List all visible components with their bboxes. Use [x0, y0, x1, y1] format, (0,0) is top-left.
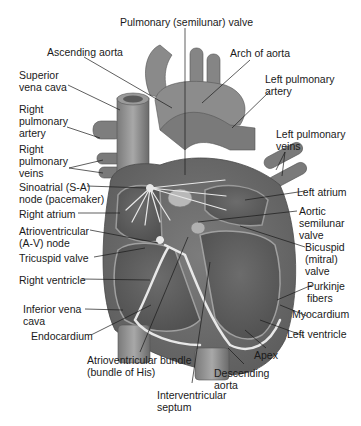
label-right-pulmonary-veins: Right pulmonary veins [19, 143, 68, 179]
label-ascending-aorta: Ascending aorta [47, 46, 123, 58]
label-inferior-vena-cava: Inferior vena cava [23, 303, 81, 327]
label-aortic-valve: Aortic semilunar valve [299, 205, 345, 241]
label-right-ventricle: Right ventricle [19, 274, 86, 286]
label-left-atrium: Left atrium [297, 186, 347, 198]
label-right-pulmonary-artery: Right pulmonary artery [19, 103, 68, 139]
label-sa-node: Sinoatrial (S-A) node (pacemaker) [19, 181, 104, 205]
label-interventricular-septum: Interventricular septum [157, 389, 226, 413]
label-apex: Apex [254, 349, 278, 361]
label-av-bundle: Atrioventricular bundle (bundle of His) [87, 354, 191, 378]
label-bicuspid-valve: Bicuspid (mitral) valve [305, 241, 345, 277]
label-superior-vena-cava: Superior vena cava [19, 69, 67, 93]
label-tricuspid-valve: Tricuspid valve [19, 252, 89, 264]
label-left-pulmonary-artery: Left pulmonary artery [265, 73, 334, 97]
label-arch-of-aorta: Arch of aorta [230, 47, 290, 59]
label-av-node: Atrioventricular (A-V) node [19, 225, 89, 249]
label-myocardium: Myocardium [292, 308, 349, 320]
label-pulmonary-valve: Pulmonary (semilunar) valve [120, 16, 253, 28]
label-descending-aorta: Descending aorta [214, 367, 269, 391]
label-endocardium: Endocardium [31, 330, 93, 342]
label-purkinje-fibers: Purkinje fibers [307, 280, 345, 304]
label-left-ventricle: Left ventricle [287, 328, 347, 340]
label-left-pulmonary-veins: Left pulmonary veins [276, 128, 345, 152]
label-right-atrium: Right atrium [19, 208, 76, 220]
